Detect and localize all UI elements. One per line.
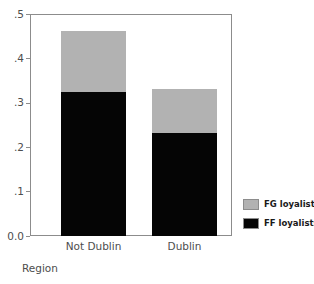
bar-not-dublin[interactable] [61,31,126,236]
x-axis-title: Region [22,262,58,274]
bar-dublin[interactable] [152,89,217,236]
y-tick-mark [26,147,30,148]
y-tick-mark [26,191,30,192]
y-tick-label: .5 [14,9,24,20]
x-tick-label-not-dublin: Not Dublin [61,240,126,252]
y-tick-label: .4 [14,53,24,64]
y-axis: .5 .4 .3 .2 .1 0.0 [0,0,30,284]
bar-segment-ff-loyalists[interactable] [152,133,217,236]
y-tick-mark [26,58,30,59]
y-tick-label: 0.0 [7,231,24,242]
y-tick-mark [26,236,30,237]
legend-swatch-icon [243,199,259,210]
legend-item-label: FG loyalists [264,200,314,209]
y-tick-label: .2 [14,142,24,153]
legend-item-fg-loyalists[interactable]: FG loyalists [243,196,313,212]
bar-segment-fg-loyalists[interactable] [152,89,217,133]
legend-item-ff-loyalists[interactable]: FF loyalists [243,215,313,231]
bar-segment-ff-loyalists[interactable] [61,92,126,236]
y-tick-label: .3 [14,97,24,108]
y-tick-mark [26,103,30,104]
stacked-bar-chart: .5 .4 .3 .2 .1 0.0 Not Dublin Dublin Reg… [0,0,314,284]
legend-item-label: FF loyalists [264,219,314,228]
x-tick-label-dublin: Dublin [152,240,217,252]
legend-swatch-icon [243,218,259,229]
y-tick-mark [26,14,30,15]
chart-legend: FG loyalists FF loyalists [243,196,313,234]
bar-segment-fg-loyalists[interactable] [61,31,126,92]
y-tick-label: .1 [14,186,24,197]
